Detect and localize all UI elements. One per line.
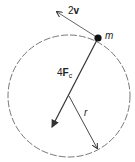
- circular-motion-diagram: [0, 0, 135, 162]
- mass-label: m: [105, 31, 113, 41]
- radius-arrow: [69, 96, 97, 148]
- force-arrow: [52, 38, 98, 127]
- mass-dot: [94, 34, 101, 41]
- radius-label: r: [84, 108, 87, 118]
- velocity-label: 2v: [68, 6, 79, 16]
- force-label: 4Fc: [57, 68, 72, 79]
